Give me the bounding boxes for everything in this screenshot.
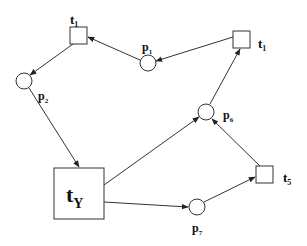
arc-p2-to-tY <box>29 88 79 167</box>
place-circle <box>16 73 32 89</box>
place-p1: p1 <box>140 40 156 71</box>
transition-box <box>70 27 87 44</box>
transition-label: t1 <box>70 12 78 29</box>
transition-box <box>54 168 104 219</box>
arc-p7-to-t5 <box>204 177 255 202</box>
arc-t5-to-p6 <box>212 119 260 166</box>
place-label: p6 <box>223 108 234 124</box>
place-p2: p2 <box>16 73 49 105</box>
arc-p6-to-t1b <box>210 49 240 104</box>
transition-t1b: t1 <box>233 31 266 53</box>
place-circle <box>189 199 205 215</box>
arc-tY-to-p6 <box>104 117 199 185</box>
place-p6: p6 <box>198 104 234 124</box>
places: p1p2p6p7 <box>16 40 234 237</box>
place-label: p2 <box>38 89 49 105</box>
transition-t5: t5 <box>256 166 291 187</box>
place-circle <box>140 55 156 71</box>
transitions: t1t1tYt5 <box>54 12 291 219</box>
transition-label: t5 <box>283 170 291 187</box>
place-label: p1 <box>142 40 153 56</box>
transition-tY: tY <box>54 168 104 219</box>
transition-t1a: t1 <box>70 12 87 44</box>
arc-p1-to-t1a <box>88 37 140 60</box>
arc-tY-to-p7 <box>104 202 188 207</box>
place-label: p7 <box>192 221 203 237</box>
place-circle <box>198 104 214 120</box>
transition-box <box>256 166 273 183</box>
transition-label: t1 <box>258 36 266 53</box>
place-p7: p7 <box>189 199 205 237</box>
arc-t1a-to-p2 <box>30 44 73 75</box>
petri-net-diagram: p1p2p6p7 t1t1tYt5 <box>0 0 307 246</box>
arc-t1b-to-p1 <box>156 37 233 61</box>
transition-box <box>233 31 250 48</box>
